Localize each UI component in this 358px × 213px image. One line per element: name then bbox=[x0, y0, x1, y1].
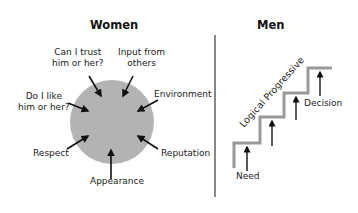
women-title: Women bbox=[90, 18, 138, 32]
men-title: Men bbox=[257, 18, 284, 32]
women-circle bbox=[70, 80, 154, 164]
factor-like: Do I like him or her? bbox=[18, 91, 70, 113]
factor-reputation: Reputation bbox=[161, 148, 210, 159]
factor-trust: Can I trust him or her? bbox=[52, 47, 104, 69]
need-label: Need bbox=[236, 171, 260, 182]
factor-respect: Respect bbox=[33, 148, 69, 159]
factor-input: Input from others bbox=[118, 47, 165, 69]
factor-appearance: Appearance bbox=[90, 176, 144, 187]
decision-label: Decision bbox=[304, 98, 342, 109]
factor-environment: Environment bbox=[154, 89, 211, 100]
